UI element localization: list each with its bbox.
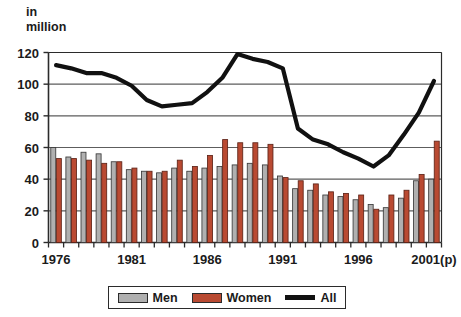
bar-women <box>313 184 318 243</box>
bar-women <box>374 209 379 242</box>
bar-men <box>126 170 131 243</box>
bar-women <box>208 155 213 242</box>
bar-men <box>66 157 71 243</box>
bar-women <box>253 143 258 243</box>
x-tick-label: 1986 <box>193 252 222 267</box>
x-tick-label: 1976 <box>42 252 71 267</box>
legend-swatch-all <box>285 295 315 300</box>
bar-women <box>56 159 61 243</box>
bar-men <box>338 197 343 243</box>
bar-men <box>96 154 101 243</box>
bar-women <box>117 162 122 243</box>
legend-item-women: Women <box>185 291 279 305</box>
bar-women <box>132 168 137 242</box>
bar-women <box>71 159 76 243</box>
bar-men <box>323 195 328 243</box>
bar-men <box>414 181 419 243</box>
bar-men <box>429 179 434 242</box>
bar-women <box>147 171 152 242</box>
bar-men <box>217 167 222 243</box>
bar-men <box>277 176 282 243</box>
legend-swatch-women <box>192 293 222 303</box>
legend-item-all: All <box>278 291 343 305</box>
bar-women <box>283 178 288 243</box>
bar-men <box>368 205 373 243</box>
y-tick-label: 0 <box>5 235 39 250</box>
bar-women <box>404 190 409 242</box>
y-tick-label: 40 <box>5 172 39 187</box>
y-tick-label: 80 <box>5 108 39 123</box>
y-tick-label: 60 <box>5 140 39 155</box>
bar-women <box>328 192 333 243</box>
bar-men <box>51 148 56 243</box>
y-tick-label: 120 <box>5 45 39 60</box>
y-tick-label: 100 <box>5 77 39 92</box>
legend-swatch-men <box>118 293 148 303</box>
bar-women <box>419 174 424 242</box>
bar-women <box>268 144 273 242</box>
bar-men <box>202 168 207 242</box>
bar-women <box>102 163 107 242</box>
chart-container: in million 020406080100120 1976198119861… <box>0 0 461 317</box>
x-tick-label: 2001(p) <box>411 252 457 267</box>
x-tick-label: 1991 <box>268 252 297 267</box>
legend-item-men: Men <box>111 291 185 305</box>
bar-women <box>177 160 182 242</box>
y-tick-label: 20 <box>5 203 39 218</box>
bar-women <box>389 195 394 243</box>
bar-women <box>192 167 197 243</box>
legend-label: All <box>320 291 336 305</box>
line-all <box>56 54 434 166</box>
bar-men <box>353 200 358 243</box>
bar-men <box>247 163 252 242</box>
bar-men <box>157 173 162 243</box>
chart-legend: MenWomenAll <box>108 286 346 309</box>
plot-area <box>0 0 461 317</box>
bar-men <box>398 198 403 242</box>
bar-women <box>359 195 364 243</box>
bar-women <box>344 193 349 242</box>
bar-men <box>81 152 86 242</box>
bar-women <box>87 160 92 242</box>
bar-women <box>238 143 243 243</box>
bar-men <box>141 171 146 242</box>
bar-men <box>383 208 388 243</box>
bar-men <box>308 190 313 242</box>
bar-men <box>187 171 192 242</box>
x-tick-label: 1996 <box>344 252 373 267</box>
legend-label: Women <box>227 291 272 305</box>
bar-men <box>293 189 298 243</box>
bar-men <box>111 162 116 243</box>
bar-women <box>434 141 439 242</box>
bar-men <box>262 165 267 243</box>
x-tick-label: 1981 <box>117 252 146 267</box>
bar-women <box>298 181 303 243</box>
bar-women <box>162 171 167 242</box>
bar-men <box>172 168 177 242</box>
bar-men <box>232 165 237 243</box>
legend-label: Men <box>153 291 178 305</box>
bar-women <box>223 140 228 243</box>
